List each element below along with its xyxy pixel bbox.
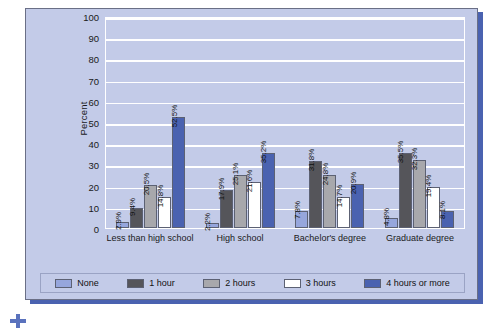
bar[interactable]: 8.1% <box>441 211 454 228</box>
y-tick-label: 20 <box>69 181 99 192</box>
legend-item[interactable]: None <box>55 278 99 288</box>
bar[interactable]: 17.9% <box>220 190 233 228</box>
legend-label: 2 hours <box>225 278 255 288</box>
bar-groups: 2.9%9.4%20.5%14.8%52.5%2.2%17.9%25.1%21.… <box>106 18 464 228</box>
bar[interactable]: 52.5% <box>172 117 185 228</box>
bar[interactable]: 14.7% <box>337 197 350 228</box>
bar[interactable]: 20.9% <box>351 184 364 228</box>
legend-item[interactable]: 2 hours <box>203 278 255 288</box>
bar-group: 4.8%35.5%32.3%19.4%8.1% <box>375 18 465 228</box>
legend-swatch <box>55 279 72 288</box>
y-tick-label: 90 <box>69 33 99 44</box>
legend-label: 4 hours or more <box>386 278 450 288</box>
chart-legend: None1 hour2 hours3 hours4 hours or more <box>40 273 465 293</box>
legend-swatch <box>127 279 144 288</box>
bar-value-label: 31.8% <box>308 148 316 171</box>
legend-item[interactable]: 3 hours <box>284 278 336 288</box>
bar-group: 2.9%9.4%20.5%14.8%52.5% <box>106 18 196 228</box>
bar-group: 7.8%31.8%24.8%14.7%20.9% <box>285 18 375 228</box>
bar[interactable]: 7.8% <box>295 211 308 228</box>
bar-value-label: 8.1% <box>439 201 447 219</box>
x-axis-labels: Less than high schoolHigh schoolBachelor… <box>105 233 465 243</box>
figure: Percent 1009080706050403020100 2.9%9.4%2… <box>0 0 489 328</box>
bar-value-label: 35.5% <box>397 140 405 163</box>
cross-horizontal-bar <box>10 319 26 323</box>
x-axis-label: Graduate degree <box>375 233 465 243</box>
bar[interactable]: 9.4% <box>130 208 143 228</box>
y-tick-label: 40 <box>69 139 99 150</box>
y-tick-label: 100 <box>69 12 99 23</box>
legend-item[interactable]: 1 hour <box>127 278 175 288</box>
bar[interactable]: 21.6% <box>248 182 261 228</box>
bar-value-label: 25.1% <box>232 162 240 185</box>
legend-label: 1 hour <box>149 278 175 288</box>
bar-value-label: 32.3% <box>411 147 419 170</box>
y-tick-label: 10 <box>69 202 99 213</box>
bar-value-label: 35.2% <box>260 141 268 164</box>
y-tick-label: 80 <box>69 54 99 65</box>
bar-value-label: 2.9% <box>115 212 123 230</box>
bar[interactable]: 14.8% <box>158 197 171 228</box>
bar[interactable]: 2.9% <box>116 222 129 228</box>
y-tick-label: 50 <box>69 118 99 129</box>
bar-value-label: 20.9% <box>350 171 358 194</box>
plot-area: 2.9%9.4%20.5%14.8%52.5%2.2%17.9%25.1%21.… <box>105 17 465 229</box>
bar-value-label: 7.8% <box>294 201 302 219</box>
legend-swatch <box>203 279 220 288</box>
y-tick-label: 0 <box>69 224 99 235</box>
bar-value-label: 20.5% <box>143 172 151 195</box>
y-axis-ticks: 1009080706050403020100 <box>72 17 102 229</box>
bar-value-label: 14.7% <box>336 185 344 208</box>
bar-value-label: 14.8% <box>157 184 165 207</box>
bar-group: 2.2%17.9%25.1%21.6%35.2% <box>196 18 286 228</box>
bar[interactable]: 35.2% <box>262 153 275 228</box>
legend-label: 3 hours <box>306 278 336 288</box>
legend-item[interactable]: 4 hours or more <box>364 278 450 288</box>
plot-area-wrapper: Percent 1009080706050403020100 2.9%9.4%2… <box>50 17 470 262</box>
x-axis-label: Bachelor's degree <box>285 233 375 243</box>
bar-value-label: 52.5% <box>171 104 179 127</box>
y-tick-label: 60 <box>69 96 99 107</box>
bar-value-label: 4.8% <box>383 208 391 226</box>
bar[interactable]: 2.2% <box>206 223 219 228</box>
legend-swatch <box>364 279 381 288</box>
y-tick-label: 70 <box>69 75 99 86</box>
legend-swatch <box>284 279 301 288</box>
legend-label: None <box>77 278 99 288</box>
bar-value-label: 17.9% <box>218 178 226 201</box>
bar-value-label: 21.6% <box>246 170 254 193</box>
x-axis-label: High school <box>195 233 285 243</box>
y-tick-label: 30 <box>69 160 99 171</box>
bar[interactable]: 4.8% <box>385 218 398 228</box>
bar-value-label: 2.2% <box>204 213 212 231</box>
bar-value-label: 9.4% <box>129 198 137 216</box>
cross-marker-icon <box>10 314 26 328</box>
chart-panel: Percent 1009080706050403020100 2.9%9.4%2… <box>25 8 478 300</box>
bar-value-label: 19.4% <box>425 175 433 198</box>
bar-value-label: 24.8% <box>322 163 330 186</box>
x-axis-label: Less than high school <box>105 233 195 243</box>
